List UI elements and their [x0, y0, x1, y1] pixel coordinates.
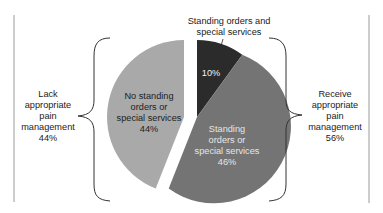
callout-top-label: Standing orders and special services: [188, 16, 271, 37]
svg-text:No standing: No standing: [124, 91, 173, 101]
svg-text:appropriate: appropriate: [312, 100, 358, 110]
svg-text:pain: pain: [39, 111, 56, 121]
svg-text:Standing orders and: Standing orders and: [188, 16, 271, 26]
chart-frame: Standing orders and special services 10%…: [0, 0, 383, 213]
svg-text:Lack: Lack: [38, 89, 58, 99]
svg-text:orders or: orders or: [131, 102, 168, 112]
svg-text:56%: 56%: [326, 133, 344, 143]
svg-text:pain: pain: [326, 111, 343, 121]
group-right-label: Receive appropriate pain management 56%: [308, 89, 362, 143]
svg-text:Receive: Receive: [318, 89, 351, 99]
svg-text:orders or: orders or: [209, 135, 246, 145]
svg-text:special services: special services: [197, 27, 262, 37]
svg-text:management: management: [21, 122, 75, 132]
svg-text:management: management: [308, 122, 362, 132]
pie-chart: Standing orders and special services 10%…: [0, 0, 383, 213]
slice-dark-percent: 10%: [202, 68, 220, 78]
svg-text:special services: special services: [117, 113, 182, 123]
svg-text:appropriate: appropriate: [25, 100, 71, 110]
group-left-label: Lack appropriate pain management 44%: [21, 89, 75, 143]
svg-text:Standing: Standing: [209, 124, 245, 134]
svg-text:46%: 46%: [218, 157, 236, 167]
svg-text:44%: 44%: [140, 124, 158, 134]
svg-text:44%: 44%: [39, 133, 57, 143]
svg-text:special services: special services: [195, 146, 260, 156]
left-brace-icon: [78, 38, 110, 201]
